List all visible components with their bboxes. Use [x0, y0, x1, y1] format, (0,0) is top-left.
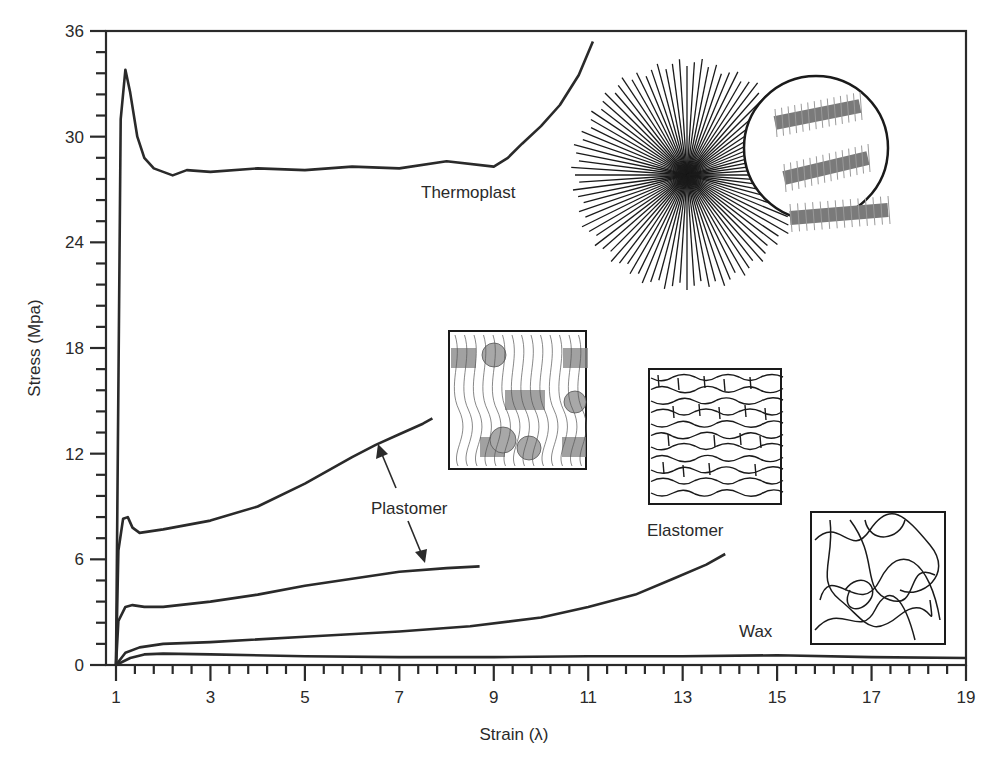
morphology-insets: [449, 59, 945, 644]
x-tick-label: 17: [862, 688, 881, 707]
x-tick-label: 9: [489, 688, 498, 707]
lamellae-magnifier-icon: [744, 76, 890, 232]
y-axis-ticks: 061218243036: [65, 22, 106, 675]
x-tick-label: 3: [206, 688, 215, 707]
curve-wax: [116, 654, 966, 665]
y-tick-label: 18: [65, 339, 84, 358]
x-tick-label: 19: [957, 688, 976, 707]
y-tick-label: 36: [65, 22, 84, 41]
label-plastomer: Plastomer: [371, 499, 448, 518]
wax-coils-icon: [811, 512, 945, 644]
x-tick-label: 1: [111, 688, 120, 707]
curve-plastomer-lower: [116, 566, 480, 665]
y-tick-label: 0: [75, 656, 84, 675]
y-tick-label: 6: [75, 550, 84, 569]
y-axis-title: Stress (Mpa): [25, 299, 44, 396]
x-axis-ticks: 135791113151719: [111, 665, 975, 707]
curve-plastomer-upper: [116, 418, 432, 665]
plastomer-morphology-icon: [449, 331, 588, 469]
y-tick-label: 24: [65, 233, 84, 252]
stress-strain-chart: 061218243036 135791113151719 Thermoplast…: [0, 0, 993, 772]
y-tick-label: 30: [65, 128, 84, 147]
y-tick-label: 12: [65, 445, 84, 464]
elastomer-network-icon: [649, 369, 783, 504]
x-tick-label: 15: [768, 688, 787, 707]
label-thermoplast: Thermoplast: [421, 183, 516, 202]
x-tick-label: 13: [673, 688, 692, 707]
x-tick-label: 7: [395, 688, 404, 707]
x-tick-label: 5: [300, 688, 309, 707]
label-wax: Wax: [739, 622, 773, 641]
plastomer-arrow-up-icon: [376, 444, 396, 488]
x-tick-label: 11: [579, 688, 597, 707]
label-elastomer: Elastomer: [647, 521, 724, 540]
x-axis-title: Strain (λ): [480, 725, 549, 744]
plastomer-arrow-down-icon: [408, 521, 427, 563]
